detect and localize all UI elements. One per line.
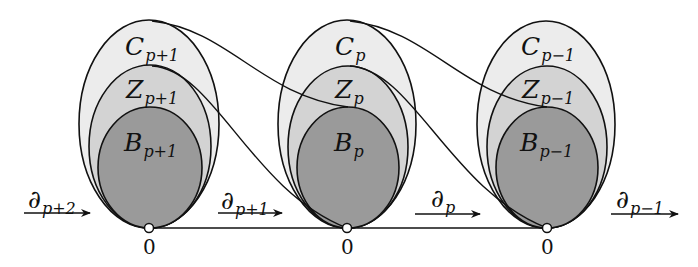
zero-dot-2 (343, 224, 352, 233)
label-base: C (521, 32, 540, 61)
label-base: ∂ (431, 184, 444, 213)
zero-dot-3 (543, 224, 552, 233)
label-boundary-p+2: ∂p+2 (28, 187, 76, 217)
label-base: Z (522, 75, 539, 104)
set-B-p-1 (496, 107, 598, 228)
label-B-p-1: Bp−1 (520, 130, 573, 160)
label-boundary-p: ∂p (431, 186, 455, 216)
label-Z-p+1: Zp+1 (126, 77, 178, 107)
label-base: ∂ (221, 186, 234, 215)
label-B-p+1: Bp+1 (124, 130, 177, 160)
label-Z-p-1: Zp−1 (522, 77, 574, 107)
set-B-p+1 (98, 107, 202, 228)
label-sub: p (355, 46, 365, 65)
label-base: B (334, 128, 352, 157)
label-sub: p+1 (145, 46, 179, 65)
zero-dot-1 (145, 224, 154, 233)
zero-label-2: 0 (341, 237, 354, 257)
label-C-p: Cp (335, 34, 365, 64)
label-sub: p+1 (143, 142, 177, 161)
label-sub: p−1 (540, 89, 574, 108)
label-base: B (124, 128, 142, 157)
label-boundary-p+1: ∂p+1 (221, 188, 269, 218)
label-boundary-p-1: ∂p−1 (616, 187, 664, 217)
zero-label-3: 0 (541, 237, 554, 257)
label-B-p: Bp (334, 130, 364, 160)
label-sub: p (353, 89, 363, 108)
label-C-p+1: Cp+1 (125, 34, 179, 64)
label-sub: p+1 (144, 89, 178, 108)
label-Z-p: Zp (335, 77, 364, 107)
label-sub: p+2 (42, 199, 76, 218)
label-base: ∂ (616, 185, 629, 214)
zero-label-1: 0 (143, 237, 156, 257)
label-sub: p (445, 198, 455, 217)
label-C-p-1: Cp−1 (521, 34, 575, 64)
chain-complex-diagram: Cp+1 Zp+1 Bp+1 Cp Zp Bp Cp−1 Zp−1 Bp−1 ∂… (0, 0, 698, 267)
label-sub: p (353, 142, 363, 161)
label-sub: p−1 (541, 46, 575, 65)
label-sub: p−1 (630, 199, 664, 218)
label-sub: p+1 (235, 200, 269, 219)
label-base: C (335, 32, 354, 61)
label-base: Z (126, 75, 143, 104)
label-base: C (125, 32, 144, 61)
label-base: B (520, 128, 538, 157)
label-base: ∂ (28, 185, 41, 214)
label-base: Z (335, 75, 352, 104)
label-sub: p−1 (539, 142, 573, 161)
